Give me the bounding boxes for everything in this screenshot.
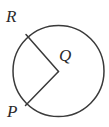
point-label-P: P <box>6 102 17 121</box>
circle-diagram-canvas: R Q P <box>0 0 109 127</box>
radius-line-QR <box>26 35 59 72</box>
point-label-R: R <box>5 7 17 26</box>
geometry-figure: R Q P <box>0 0 109 127</box>
radius-line-QP <box>26 72 59 106</box>
point-label-Q: Q <box>59 46 71 65</box>
